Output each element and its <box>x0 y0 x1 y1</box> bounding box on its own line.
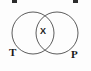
intersection-label-x: X <box>40 27 46 36</box>
venn-diagram-figure: X T P <box>0 0 91 71</box>
circle-set-t <box>12 12 54 54</box>
right-circle-label-p: P <box>71 49 78 60</box>
left-circle-label-t: T <box>9 47 16 58</box>
